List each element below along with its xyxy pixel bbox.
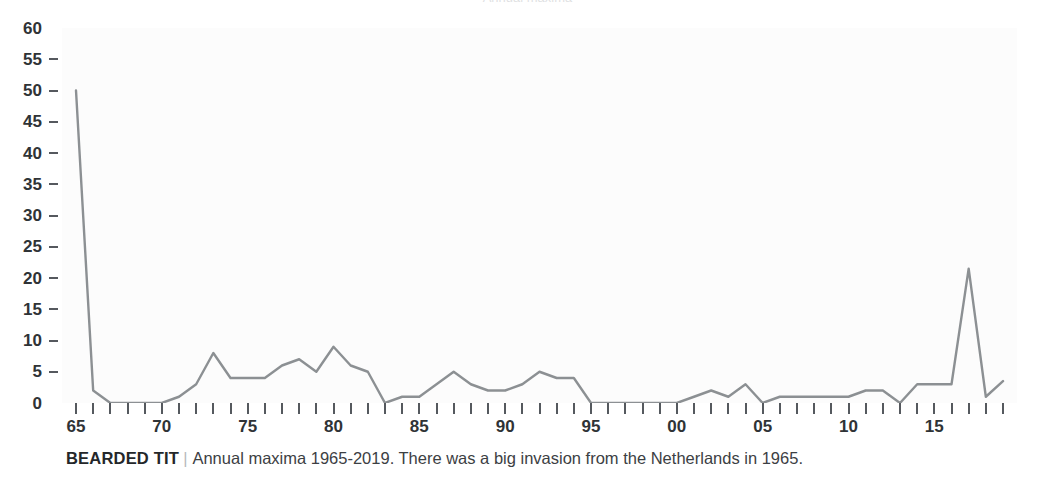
x-axis-tick-mark <box>916 403 918 414</box>
x-axis-tick-mark <box>642 403 644 414</box>
x-axis-tick-mark <box>607 403 609 414</box>
y-axis-tick-label: 45 <box>23 113 42 130</box>
y-axis-tick-mark <box>49 90 58 92</box>
x-axis-tick-mark <box>521 403 523 414</box>
x-axis-tick-mark <box>315 403 317 414</box>
x-axis-tick-mark <box>848 403 850 414</box>
y-axis-tick-label: 5 <box>32 363 42 380</box>
x-axis-tick-mark <box>161 403 163 414</box>
y-axis-tick-mark <box>49 58 58 60</box>
y-axis-tick-label: 0 <box>32 395 42 412</box>
x-axis-tick-mark <box>195 403 197 414</box>
x-axis-tick-mark <box>676 403 678 414</box>
x-axis-tick-mark <box>109 403 111 414</box>
x-axis-tick-label: 15 <box>925 418 944 435</box>
x-axis-tick-mark <box>1002 403 1004 414</box>
x-axis-tick-mark <box>298 403 300 414</box>
y-axis-tick-mark <box>49 402 58 404</box>
y-axis-tick-label: 10 <box>23 332 42 349</box>
x-axis-tick-mark <box>504 403 506 414</box>
x-axis: 6570758085909500051015 <box>62 403 1017 440</box>
x-axis-tick-mark <box>453 403 455 414</box>
x-axis-tick-mark <box>384 403 386 414</box>
y-axis-tick-label: 50 <box>23 82 42 99</box>
y-axis-tick-mark <box>49 215 58 217</box>
y-axis-tick-mark <box>49 340 58 342</box>
x-axis-tick-mark <box>487 403 489 414</box>
x-axis-tick-label: 70 <box>152 418 171 435</box>
y-axis-tick-label: 30 <box>23 207 42 224</box>
x-axis-tick-mark <box>745 403 747 414</box>
x-axis-tick-mark <box>659 403 661 414</box>
caption-description: Annual maxima 1965-2019. There was a big… <box>192 449 803 467</box>
x-axis-tick-mark <box>556 403 558 414</box>
y-axis-tick-label: 15 <box>23 301 42 318</box>
y-axis-tick-mark <box>49 277 58 279</box>
x-axis-tick-mark <box>350 403 352 414</box>
x-axis-tick-mark <box>693 403 695 414</box>
x-axis-tick-mark <box>590 403 592 414</box>
line-chart: 051015202530354045505560 657075808590950… <box>0 0 1055 440</box>
x-axis-tick-mark <box>899 403 901 414</box>
caption: BEARDED TIT|Annual maxima 1965-2019. The… <box>66 447 1026 469</box>
series-line-svg <box>62 28 1017 403</box>
x-axis-tick-label: 80 <box>324 418 343 435</box>
x-axis-tick-label: 10 <box>839 418 858 435</box>
series-bearded-tit-line <box>76 91 1003 404</box>
y-axis-tick-label: 20 <box>23 270 42 287</box>
x-axis-tick-mark <box>968 403 970 414</box>
x-axis-tick-mark <box>281 403 283 414</box>
x-axis-tick-mark <box>539 403 541 414</box>
x-axis-tick-mark <box>779 403 781 414</box>
x-axis-tick-mark <box>710 403 712 414</box>
x-axis-tick-mark <box>624 403 626 414</box>
caption-separator: | <box>179 449 192 467</box>
x-axis-tick-mark <box>127 403 129 414</box>
y-axis-tick-mark <box>49 246 58 248</box>
x-axis-tick-label: 00 <box>667 418 686 435</box>
y-axis-tick-mark <box>49 152 58 154</box>
y-axis-tick-label: 35 <box>23 176 42 193</box>
x-axis-tick-label: 95 <box>582 418 601 435</box>
x-axis-tick-mark <box>92 403 94 414</box>
x-axis-tick-mark <box>573 403 575 414</box>
chart-page: Annual maxima 051015202530354045505560 6… <box>0 0 1055 483</box>
x-axis-tick-mark <box>367 403 369 414</box>
x-axis-tick-mark <box>882 403 884 414</box>
x-axis-tick-mark <box>333 403 335 414</box>
x-axis-tick-mark <box>951 403 953 414</box>
x-axis-tick-mark <box>436 403 438 414</box>
plot-area <box>62 28 1017 403</box>
x-axis-tick-mark <box>470 403 472 414</box>
x-axis-tick-mark <box>830 403 832 414</box>
y-axis-tick-mark <box>49 27 58 29</box>
caption-species-name: BEARDED TIT <box>66 449 179 467</box>
y-axis-tick-label: 25 <box>23 238 42 255</box>
y-axis-tick-mark <box>49 183 58 185</box>
x-axis-tick-mark <box>418 403 420 414</box>
x-axis-tick-mark <box>144 403 146 414</box>
x-axis-tick-label: 05 <box>753 418 772 435</box>
x-axis-tick-mark <box>727 403 729 414</box>
x-axis-tick-mark <box>264 403 266 414</box>
x-axis-tick-mark <box>762 403 764 414</box>
x-axis-tick-mark <box>813 403 815 414</box>
x-axis-tick-label: 65 <box>67 418 86 435</box>
x-axis-tick-mark <box>985 403 987 414</box>
y-axis-tick-mark <box>49 121 58 123</box>
x-axis-tick-label: 85 <box>410 418 429 435</box>
x-axis-tick-mark <box>247 403 249 414</box>
y-axis-tick-label: 55 <box>23 51 42 68</box>
x-axis-tick-mark <box>865 403 867 414</box>
x-axis-tick-mark <box>230 403 232 414</box>
x-axis-tick-mark <box>212 403 214 414</box>
x-axis-tick-label: 90 <box>496 418 515 435</box>
y-axis-tick-label: 40 <box>23 145 42 162</box>
x-axis-tick-mark <box>75 403 77 414</box>
y-axis: 051015202530354045505560 <box>0 0 62 440</box>
x-axis-tick-mark <box>796 403 798 414</box>
y-axis-tick-mark <box>49 308 58 310</box>
x-axis-tick-mark <box>178 403 180 414</box>
y-axis-tick-mark <box>49 371 58 373</box>
x-axis-tick-mark <box>933 403 935 414</box>
